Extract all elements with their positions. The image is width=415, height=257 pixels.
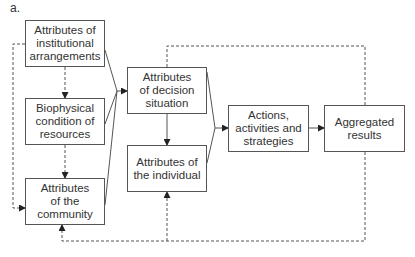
box-actions-strategies: Actions, activities and strategies (228, 105, 309, 152)
box-biophysical-condition: Biophysical condition of resources (25, 98, 105, 145)
box-institutional-arrangements: Attributes of institutional arrangements (25, 20, 105, 67)
box-decision-situation: Attributes of decision situation (127, 67, 207, 114)
box-aggregated-results: Aggregated results (324, 105, 405, 152)
box-community-attributes: Attributes of the community (25, 178, 105, 225)
box-individual-attributes: Attributes of the individual (127, 145, 207, 192)
